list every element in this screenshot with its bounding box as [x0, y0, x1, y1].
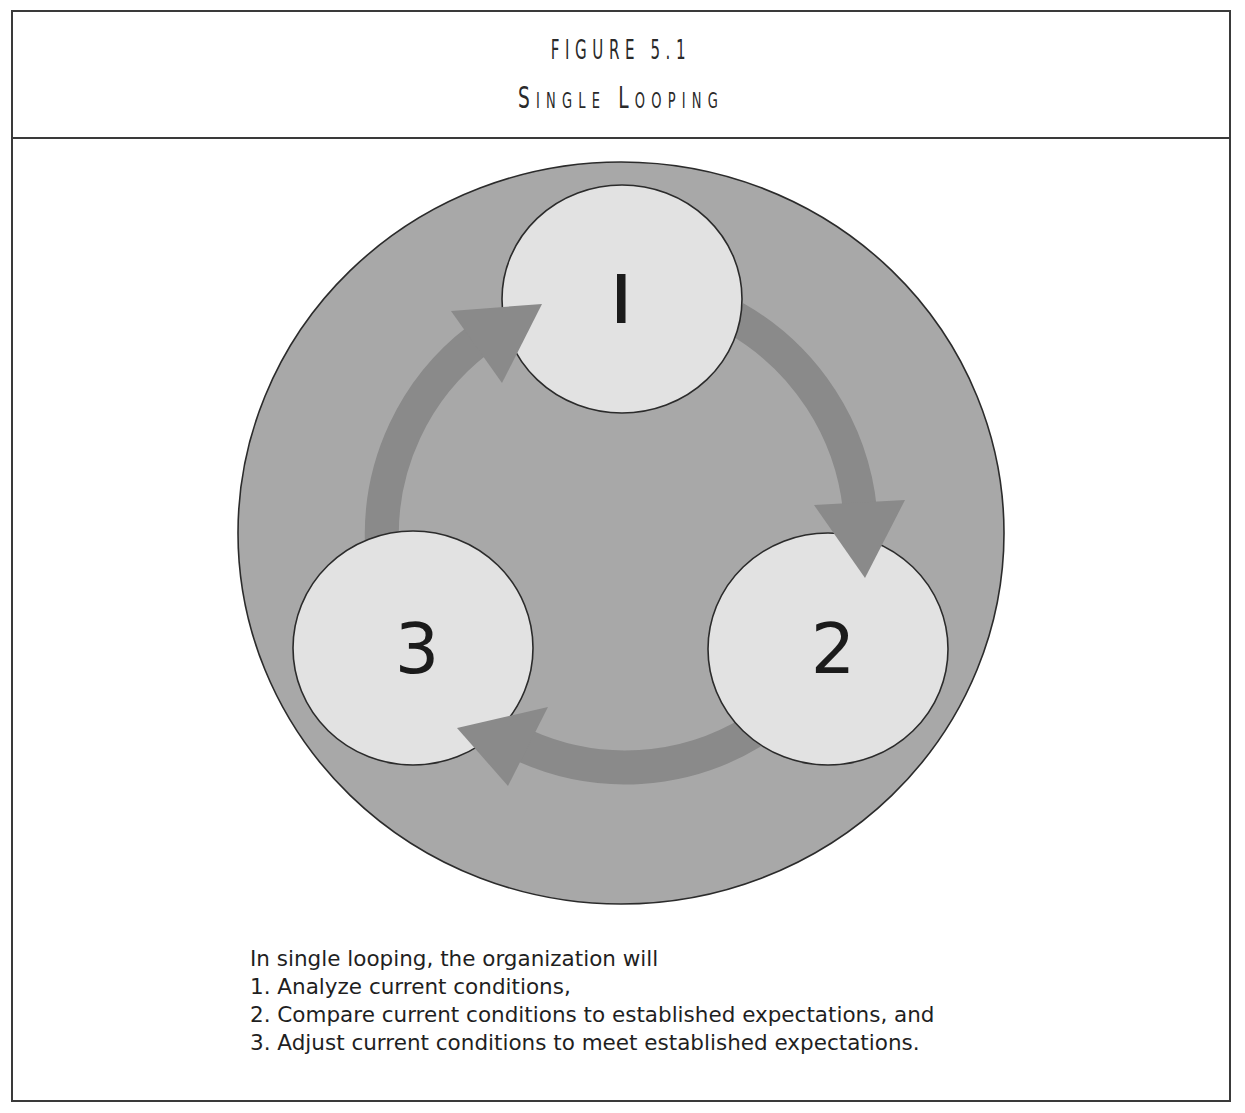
node-2-label: 2	[811, 608, 856, 690]
node-1-label-glyph	[617, 274, 626, 323]
caption-intro: In single looping, the organization will	[250, 945, 935, 973]
caption-item-1: 1. Analyze current conditions,	[250, 973, 935, 1001]
node-3-label: 3	[395, 608, 440, 690]
figure-caption: In single looping, the organization will…	[250, 945, 935, 1057]
caption-item-3: 3. Adjust current conditions to meet est…	[250, 1029, 935, 1057]
caption-item-2: 2. Compare current conditions to establi…	[250, 1001, 935, 1029]
